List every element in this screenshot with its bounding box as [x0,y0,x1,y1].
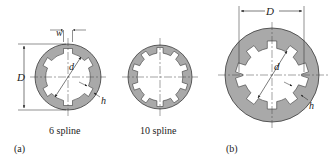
outer-diameter-label-a: D [16,71,25,83]
six-spline-caption: 6 spline [49,125,81,136]
panel-label-a: (a) [14,143,25,155]
spline-diagram: w D d h 6 spline 10 spline (a) D d h (b) [0,0,332,155]
outer-diameter-label-b: D [265,5,274,17]
h-label-a: h [101,95,106,106]
h-label-b: h [309,100,314,111]
panel-label-b: (b) [226,143,238,155]
ten-spline-figure [122,38,198,116]
six-spline-figure [18,30,106,116]
inner-diameter-label-b: d [274,60,280,72]
figure-b-spline [218,6,328,130]
w-label: w [56,27,63,38]
ten-spline-caption: 10 spline [140,125,177,136]
